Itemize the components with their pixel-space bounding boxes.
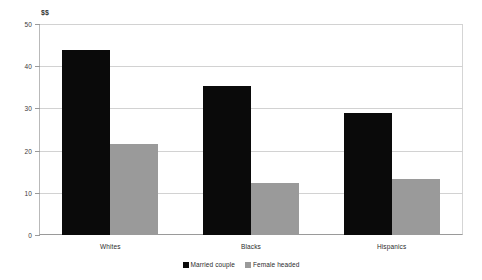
legend-swatch-icon	[183, 262, 189, 268]
y-axis-tickmark	[35, 235, 40, 236]
y-axis-tick-label: 30	[6, 105, 32, 112]
x-axis-label-blacks: Blacks	[173, 243, 329, 251]
bar-hispanics-female-headed	[392, 179, 440, 235]
y-axis-tick-label: 50	[6, 21, 32, 28]
legend-label: Female headed	[253, 261, 299, 268]
bar-blacks-female-headed	[251, 183, 299, 235]
legend-item-female-headed[interactable]: Female headed	[245, 261, 299, 268]
bar-whites-female-headed	[110, 144, 158, 235]
bars-layer	[40, 25, 462, 235]
bar-blacks-married-couple	[203, 86, 251, 235]
bar-hispanics-married-couple	[344, 113, 392, 235]
bar-whites-married-couple	[62, 50, 110, 235]
x-axis-label-whites: Whites	[32, 243, 188, 251]
y-axis-tick-label: 0	[6, 232, 32, 239]
y-axis-tick-label: 20	[6, 148, 32, 155]
legend-label: Married couple	[191, 261, 235, 268]
chart-legend: Married coupleFemale headed	[0, 261, 482, 268]
x-axis-label-hispanics: Hispanics	[314, 243, 470, 251]
legend-swatch-icon	[245, 262, 251, 268]
y-axis-tick-label: 40	[6, 63, 32, 70]
bar-chart: $$ 01020304050 WhitesBlacksHispanics Mar…	[0, 0, 482, 280]
y-axis-tick-label: 10	[6, 190, 32, 197]
legend-item-married-couple[interactable]: Married couple	[183, 261, 235, 268]
y-axis-unit-label: $$	[41, 9, 49, 17]
